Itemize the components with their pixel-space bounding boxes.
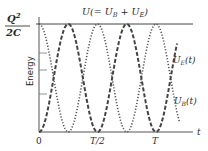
ymax-numerator: Q2 [7, 11, 21, 24]
y-axis-label: Energy [25, 56, 35, 86]
total-energy-label: U(= UB + UE) [82, 6, 148, 19]
ue-curve [39, 24, 179, 132]
x-tick-label-t: T [152, 136, 159, 146]
x-tick-label-half: T/2 [90, 136, 105, 146]
ue-label: UE(t) [173, 55, 196, 66]
ub-curve [39, 24, 177, 132]
x-axis-label: t [197, 127, 201, 137]
x-tick-label-0: 0 [36, 136, 42, 146]
ub-label: UB(t) [174, 96, 197, 107]
ymax-denominator: 2C [5, 27, 21, 38]
energy-oscillation-chart: Q2 2C U(= UB + UE) UE(t) UB(t) Energy 0 … [0, 0, 208, 151]
